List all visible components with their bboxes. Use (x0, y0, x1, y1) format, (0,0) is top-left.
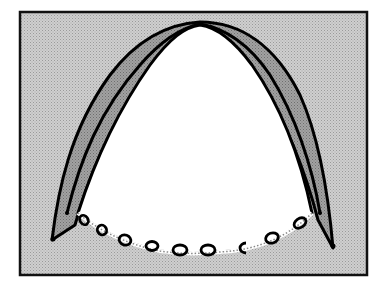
divider-end-left (65, 211, 69, 215)
arch-diagram (0, 0, 390, 293)
diagram-canvas (0, 0, 390, 293)
endpoint-left (51, 237, 56, 242)
endpoint-right (331, 244, 336, 249)
divider-end-right (318, 211, 322, 215)
